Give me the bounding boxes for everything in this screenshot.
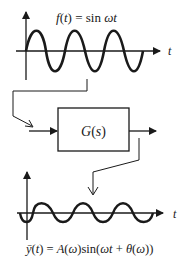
output-plot: t ȳ(t) = A(ω)sin(ωt + θ(ω)) [17,172,177,256]
diagram-canvas: t f(t) = sin ωt G(s) t ȳ(t) = A(ω)sin(ωt… [0,0,191,267]
input-plot: t f(t) = sin ωt [16,10,172,80]
output-axis-label: t [173,207,177,221]
input-formula: f(t) = sin ωt [56,10,117,25]
system-block-label: G(s) [81,124,106,140]
output-formula: ȳ(t) = A(ω)sin(ωt + θ(ω)) [24,242,153,256]
input-axis-label: t [168,44,172,58]
